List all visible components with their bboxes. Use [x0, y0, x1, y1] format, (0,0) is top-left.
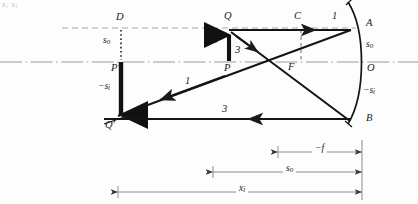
- label-ray-3-return: 3: [222, 104, 227, 115]
- label-P: P: [224, 63, 230, 74]
- ray-1-reflected-arrowhead-segment: [160, 76, 225, 100]
- label-dim-image-distance-sub: i: [243, 186, 245, 194]
- label-s-o-upper-sub: o: [107, 38, 111, 46]
- label-s-o-right: so: [366, 40, 373, 50]
- label-Q: Q: [224, 11, 232, 22]
- label-dim-focal-length-base: −f: [315, 143, 324, 153]
- ray-1-reflected-A-to-Qprime: [118, 30, 351, 116]
- label-B: B: [366, 113, 372, 124]
- label-neg-s-i-right-sub: i: [373, 88, 375, 96]
- label-neg-s-i-left: −si: [98, 82, 110, 92]
- label-s-o-right-sub: o: [370, 42, 374, 50]
- diagram-canvas: [0, 0, 418, 204]
- label-s-o-object: so: [210, 35, 217, 45]
- label-neg-s-i-left-base: −s: [98, 81, 108, 91]
- label-A: A: [366, 18, 372, 29]
- label-O: O: [367, 63, 375, 74]
- label-D: D: [116, 12, 124, 23]
- label-neg-s-i-right: −si: [363, 86, 375, 96]
- label-s-o-upper: so: [103, 36, 110, 46]
- label-ray-1-return: 1: [185, 76, 190, 87]
- concave-mirror-arc: [348, 2, 362, 124]
- label-s-o-object-sub: o: [214, 37, 218, 45]
- mirror-group: [345, 0, 362, 127]
- label-dim-object-distance: so: [283, 164, 296, 174]
- label-dim-object-distance-sub: o: [290, 166, 294, 174]
- label-dim-focal-length: −f: [312, 144, 327, 154]
- label-ray-3-from-object: 3: [235, 45, 240, 56]
- label-F: F: [288, 62, 294, 73]
- label-P-prime: P′: [111, 63, 120, 74]
- label-neg-s-i-left-sub: i: [108, 84, 110, 92]
- ray-diagram-figure: xᵢ sᵢ: [0, 0, 418, 204]
- label-ray-1-top: 1: [332, 11, 337, 22]
- label-dim-image-distance: xi: [236, 184, 248, 194]
- ray-1-group: [118, 30, 351, 116]
- label-C: C: [294, 11, 301, 22]
- label-neg-s-i-right-base: −s: [363, 85, 373, 95]
- label-Q-prime: Q′: [105, 120, 115, 131]
